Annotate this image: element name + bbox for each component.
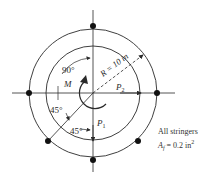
stringer-left [26,90,32,96]
angle-45-upper-label: 45° [50,105,63,115]
radius-label: R = 10 in [97,51,130,79]
angle-90-label: 90° [62,65,75,75]
stringer-note: All stringers Af = 0.2 in2 [158,126,198,154]
stringer-lower-right [135,138,141,144]
p1-label: P1 [96,118,106,129]
stringer-lower-left [45,138,51,144]
angle-45-lower-label: 45° [70,126,83,136]
note-line-1: All stringers [158,126,198,137]
moment-arrowhead-icon [80,75,88,84]
stringer-bottom [90,157,96,163]
angle-45-upper-arc [66,113,69,120]
diagram-root: 90° M R = 10 in P2 P1 45° 45° All string… [0,0,219,176]
p2-label: P2 [115,82,125,93]
stringer-right [154,90,160,96]
stringer-top [90,23,96,29]
note-line-2: Af = 0.2 in2 [158,137,198,154]
moment-label: M [63,79,72,89]
